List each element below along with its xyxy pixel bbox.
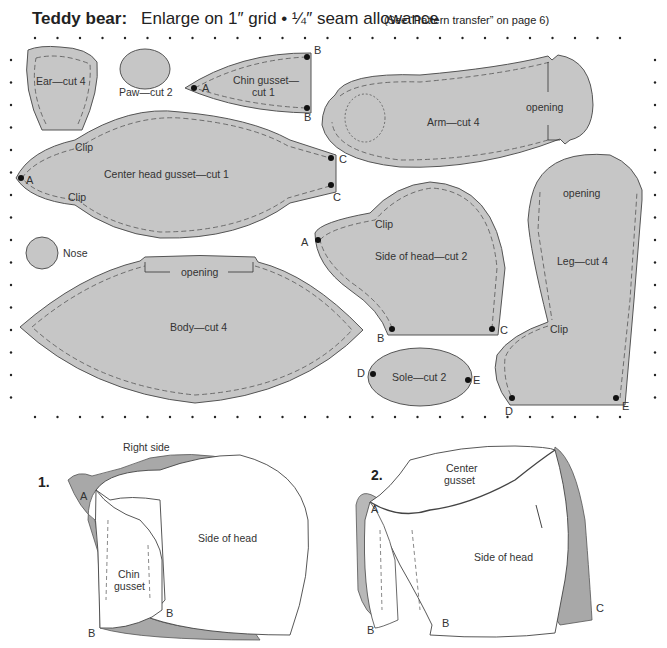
point-d: D [357,367,365,379]
step-1-illustration: 1. Right side Chin gusset Side of head A… [38,441,309,640]
clip-mark: Clip [75,141,93,153]
point-b: B [442,617,449,629]
piece-sole: Sole—cut 2 D E [357,348,480,406]
point-e: E [473,374,480,386]
point-a: A [26,174,34,186]
body-opening-label: opening [181,266,219,278]
point-c: C [333,191,341,203]
point-a: A [202,82,210,94]
clip-mark: Clip [550,323,568,335]
step-2-number: 2. [371,467,383,483]
step2-center-label-2: gusset [444,474,475,486]
piece-ear: Ear—cut 4 [27,46,98,130]
point-a: A [80,490,88,502]
point-a: A [301,236,309,248]
point-b: B [166,607,173,619]
point-b: B [314,44,321,56]
point-c: C [339,153,347,165]
point-a: A [371,503,379,515]
leg-label: Leg—cut 4 [557,255,608,267]
nose-label: Nose [63,247,88,259]
chin-gusset-label-1: Chin gusset— [233,74,299,86]
body-label: Body—cut 4 [170,321,227,333]
point-d: D [505,405,513,417]
piece-arm: opening Arm—cut 4 [322,55,593,167]
sole-label: Sole—cut 2 [392,371,446,383]
chin-gusset-label-2: cut 1 [252,86,275,98]
clip-mark: Clip [375,218,393,230]
point-e: E [622,400,629,412]
step1-chin-label-1: Chin [118,568,140,580]
pattern-sheet: Ear—cut 4 Paw—cut 2 Chin gusset— cut 1 A… [0,0,667,648]
point-c: C [596,602,604,614]
point-c: C [500,324,508,336]
piece-paw: Paw—cut 2 [119,49,173,98]
piece-body: opening Body—cut 4 [20,256,363,404]
step1-side-of-head-label: Side of head [198,532,257,544]
point-b: B [377,332,384,344]
clip-mark: Clip [68,191,86,203]
step1-chin-label-2: gusset [114,580,145,592]
arm-label: Arm—cut 4 [427,116,480,128]
step-1-number: 1. [38,474,50,490]
step2-center-label-1: Center [446,462,478,474]
leg-opening-label: opening [563,187,601,199]
point-b: B [304,111,311,123]
point-b: B [88,627,95,639]
side-of-head-label: Side of head—cut 2 [375,250,467,262]
piece-chin-gusset: Chin gusset— cut 1 A B B [185,44,321,123]
piece-nose: Nose [26,237,88,269]
ear-label: Ear—cut 4 [36,75,86,87]
arm-opening-label: opening [526,101,564,113]
paw-label: Paw—cut 2 [119,86,173,98]
step-2-illustration: 2. Center gusset Side of head A B B C [356,446,604,637]
right-side-label: Right side [123,441,170,453]
center-head-gusset-label: Center head gusset—cut 1 [104,168,229,180]
step2-side-of-head-label: Side of head [474,551,533,563]
point-b: B [367,624,374,636]
piece-leg: opening Leg—cut 4 Clip D E [495,154,642,417]
